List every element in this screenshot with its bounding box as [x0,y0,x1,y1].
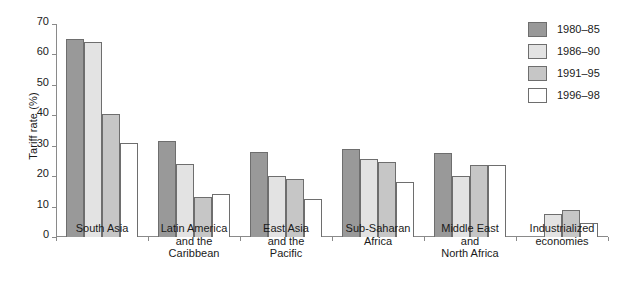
y-tick-label: 30 [37,138,49,149]
legend-swatch [528,44,547,59]
legend-item: 1996–98 [528,84,600,106]
bar-group [158,24,230,237]
y-tick: 10 [22,207,56,208]
bar-group [434,24,506,237]
x-axis-label: Sub-Saharan Africa [332,222,424,247]
bar [66,39,84,237]
bar-group-bars [342,24,414,237]
y-tick: 50 [22,85,56,86]
x-axis-label: East Asia and the Pacific [240,222,332,260]
y-axis-line [56,24,57,237]
bar [84,42,102,237]
y-tick-label: 40 [37,107,49,118]
legend: 1980–851986–901991–951996–98 [528,18,600,106]
y-tick: 0 [22,237,56,238]
bar-group [250,24,322,237]
y-tick-mark [52,115,56,116]
y-tick-label: 60 [37,46,49,57]
y-tick-mark [52,207,56,208]
bar-group-bars [158,24,230,237]
bar-chart: Tariff rate (%) 010203040506070 South As… [0,0,623,291]
bar-group [342,24,414,237]
plot-area: 010203040506070 [56,24,608,237]
y-tick-label: 10 [37,199,49,210]
x-tick-mark [56,237,57,241]
legend-label: 1980–85 [557,23,600,35]
y-axis-title: Tariff rate (%) [27,46,39,206]
y-tick-mark [52,176,56,177]
y-tick-mark [52,85,56,86]
x-axis-label: South Asia [56,222,148,235]
bar-group-bars [250,24,322,237]
y-tick-label: 50 [37,77,49,88]
legend-item: 1986–90 [528,40,600,62]
y-tick-label: 0 [43,229,49,240]
y-tick: 30 [22,146,56,147]
bar-group-bars [66,24,138,237]
legend-swatch [528,66,547,81]
legend-label: 1986–90 [557,45,600,57]
legend-item: 1980–85 [528,18,600,40]
legend-label: 1991–95 [557,67,600,79]
y-tick-mark [52,54,56,55]
bar [102,114,120,237]
y-tick: 70 [22,24,56,25]
y-tick-label: 70 [37,16,49,27]
legend-label: 1996–98 [557,89,600,101]
x-tick-mark [608,237,609,241]
x-axis-label: Latin America and the Caribbean [148,222,240,260]
y-tick-mark [52,146,56,147]
bar-group-bars [434,24,506,237]
y-tick: 20 [22,176,56,177]
legend-swatch [528,22,547,37]
x-axis-label: Industrialized economies [516,222,608,247]
legend-item: 1991–95 [528,62,600,84]
y-tick-label: 20 [37,168,49,179]
bar-group [66,24,138,237]
y-tick-mark [52,24,56,25]
legend-swatch [528,88,547,103]
y-tick: 60 [22,54,56,55]
y-tick: 40 [22,115,56,116]
x-axis-label: Middle East and North Africa [424,222,516,260]
